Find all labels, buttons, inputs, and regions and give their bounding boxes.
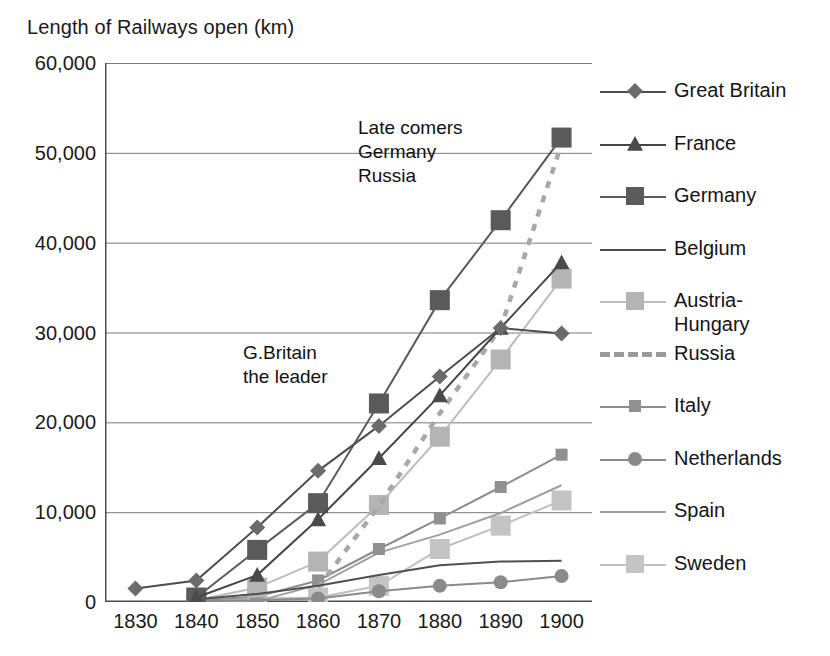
data-point-marker <box>308 552 328 572</box>
legend-key-swatch <box>600 186 666 208</box>
plot-area <box>105 63 592 602</box>
data-point-marker <box>552 128 572 148</box>
legend-square-marker-icon <box>624 185 646 207</box>
data-point-marker <box>430 539 450 559</box>
x-axis-tick-label: 1860 <box>296 610 341 633</box>
data-point-marker <box>556 449 568 461</box>
legend-label: Great Britain <box>674 78 786 102</box>
data-point-marker <box>491 516 511 536</box>
data-point-marker <box>554 254 570 269</box>
legend-label: Netherlands <box>674 446 782 470</box>
legend-item-belgium[interactable]: Belgium <box>600 236 830 289</box>
legend-label: Austria- Hungary <box>674 288 750 336</box>
data-point-marker <box>554 325 570 341</box>
legend-circle-marker-icon <box>624 448 646 470</box>
data-point-marker <box>372 584 386 598</box>
x-axis-tick-label: 1900 <box>539 610 584 633</box>
legend-item-netherlands[interactable]: Netherlands <box>600 446 830 499</box>
y-axis-tick-label: 40,000 <box>35 231 96 254</box>
legend-square-marker-icon <box>624 395 646 417</box>
y-axis-tick-label: 10,000 <box>35 501 96 524</box>
legend-item-spain[interactable]: Spain <box>600 498 830 551</box>
legend-key-swatch <box>600 239 666 261</box>
legend-key-swatch <box>600 81 666 103</box>
data-point-marker <box>373 543 385 555</box>
legend-item-italy[interactable]: Italy <box>600 393 830 446</box>
data-point-marker <box>308 493 328 513</box>
legend-key-swatch <box>600 134 666 156</box>
data-point-marker <box>552 490 572 510</box>
legend-key-swatch <box>600 449 666 471</box>
y-axis-tick-label: 0 <box>85 591 96 614</box>
data-point-marker <box>491 210 511 230</box>
x-axis-tick-label: 1880 <box>418 610 463 633</box>
railway-length-chart: Length of Railways open (km) 60,00050,00… <box>0 0 830 656</box>
legend-label: Sweden <box>674 551 746 575</box>
legend-label: Russia <box>674 341 735 365</box>
legend-triangle-marker-icon <box>624 133 646 155</box>
y-axis-tick-label: 50,000 <box>35 141 96 164</box>
legend-key-swatch <box>600 501 666 523</box>
data-point-marker <box>434 512 446 524</box>
chart-legend: Great BritainFranceGermanyBelgiumAustria… <box>600 78 830 603</box>
x-axis-tick-label: 1830 <box>113 610 158 633</box>
legend-label: Germany <box>674 183 756 207</box>
legend-key-swatch <box>600 344 666 366</box>
legend-label: France <box>674 131 736 155</box>
data-point-marker <box>369 393 389 413</box>
y-axis-tick-label: 60,000 <box>35 52 96 75</box>
legend-key-swatch <box>600 396 666 418</box>
data-point-marker <box>552 269 572 289</box>
legend-label: Belgium <box>674 236 746 260</box>
legend-item-france[interactable]: France <box>600 131 830 184</box>
chart-title: Length of Railways open (km) <box>27 16 294 39</box>
y-axis-tick-labels: 60,00050,00040,00030,00020,00010,0000 <box>0 63 96 602</box>
data-point-marker <box>495 481 507 493</box>
data-point-marker <box>555 569 569 583</box>
x-axis-tick-labels: 18301840185018601870188018901900 <box>105 610 592 644</box>
x-axis-tick-label: 1870 <box>357 610 402 633</box>
x-axis-tick-label: 1890 <box>478 610 523 633</box>
legend-dashed-line-icon <box>600 352 666 357</box>
annotation-gbritain-leader: G.Britain the leader <box>243 341 328 389</box>
data-point-marker <box>433 579 447 593</box>
data-point-marker <box>430 427 450 447</box>
legend-diamond-marker-icon <box>624 80 646 102</box>
data-point-marker <box>247 540 267 560</box>
y-axis-tick-label: 20,000 <box>35 411 96 434</box>
x-axis-tick-label: 1850 <box>235 610 280 633</box>
legend-line-icon <box>600 249 666 251</box>
legend-item-austria-hungary[interactable]: Austria- Hungary <box>600 288 830 341</box>
y-axis-tick-label: 30,000 <box>35 321 96 344</box>
plot-svg <box>105 63 592 602</box>
legend-item-germany[interactable]: Germany <box>600 183 830 236</box>
data-point-marker <box>430 290 450 310</box>
legend-label: Spain <box>674 498 725 522</box>
legend-item-great-britain[interactable]: Great Britain <box>600 78 830 131</box>
legend-item-sweden[interactable]: Sweden <box>600 551 830 604</box>
data-point-marker <box>491 349 511 369</box>
legend-square-marker-icon <box>624 553 646 575</box>
legend-key-swatch <box>600 554 666 576</box>
annotation-late-comers: Late comers Germany Russia <box>358 116 463 188</box>
data-point-marker <box>494 575 508 589</box>
legend-item-russia[interactable]: Russia <box>600 341 830 394</box>
legend-line-icon <box>600 511 666 513</box>
legend-square-marker-icon <box>624 290 646 312</box>
legend-key-swatch <box>600 291 666 313</box>
data-point-marker <box>127 581 143 597</box>
legend-label: Italy <box>674 393 711 417</box>
x-axis-tick-label: 1840 <box>174 610 219 633</box>
